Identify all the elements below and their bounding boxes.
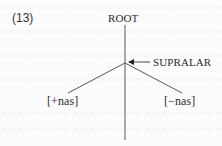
- arrow-left-icon: [128, 59, 150, 65]
- root-node-label: ROOT: [108, 12, 138, 24]
- supralar-node-label: SUPRALAR: [153, 56, 211, 68]
- minus-nasal-feature: [−nas]: [164, 94, 195, 109]
- left-branch-line: [68, 63, 125, 93]
- plus-nasal-feature: [+nas]: [47, 94, 78, 109]
